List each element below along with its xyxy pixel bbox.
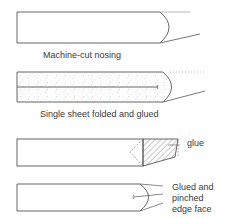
caption-folded-glued: Single sheet folded and glued: [40, 109, 159, 120]
figure-machine-cut-nosing: [17, 12, 200, 43]
caption-machine-cut-nosing: Machine-cut nosing: [43, 50, 121, 61]
figure-glue-wedge: [17, 139, 180, 166]
callout-glued-pinched: Glued and pinched edge face: [172, 182, 214, 215]
figure-folded-glued: [17, 72, 205, 102]
figure-glued-pinched: [17, 184, 163, 211]
callout-glue: glue: [187, 138, 204, 149]
